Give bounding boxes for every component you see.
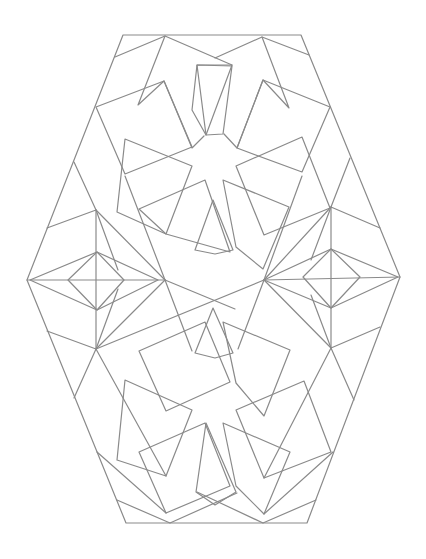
- pattern-canvas: Geometric star pattern (hexagonal tile w…: [0, 0, 426, 559]
- geometric-pattern: [0, 0, 426, 559]
- upper-star-rosette: [96, 36, 330, 269]
- lower-star-rosette: [96, 308, 333, 514]
- top-border-chevrons: [115, 36, 309, 65]
- outer-hexagon: [27, 35, 400, 523]
